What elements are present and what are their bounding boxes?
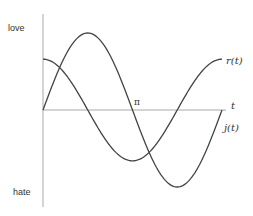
- pi-tick-label: π: [134, 97, 140, 107]
- y-bottom-label: hate: [13, 187, 31, 197]
- x-axis-label: t: [231, 100, 235, 111]
- series-label-j: j(t): [224, 122, 239, 133]
- series-label-r: r(t): [226, 55, 243, 66]
- plot-area: [0, 0, 253, 216]
- y-top-label: love: [8, 23, 25, 33]
